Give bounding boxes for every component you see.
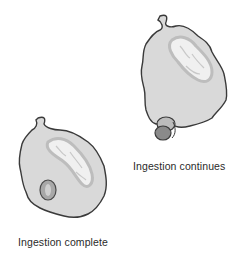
caption-ingestion-continues: Ingestion continues bbox=[133, 160, 225, 172]
ingested-particle bbox=[45, 184, 51, 196]
phagocytosis-figure: Ingestion continues Ingestion complete bbox=[0, 0, 246, 256]
cell-ingestion-complete bbox=[19, 117, 106, 217]
cell-body bbox=[19, 117, 106, 217]
caption-ingestion-complete: Ingestion complete bbox=[18, 236, 108, 248]
cell-ingestion-continues bbox=[141, 15, 227, 140]
particle bbox=[155, 126, 171, 140]
